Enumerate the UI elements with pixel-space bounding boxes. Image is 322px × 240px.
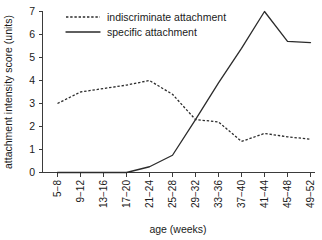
legend-label-indiscriminate: indiscriminate attachment bbox=[107, 11, 226, 23]
x-tick-label-11: 49−52 bbox=[305, 180, 316, 209]
y-tick-label-4: 4 bbox=[29, 74, 35, 86]
x-tick-label-3: 17−20 bbox=[121, 180, 132, 209]
attachment-intensity-line-chart: 0 1 2 3 4 5 6 7 bbox=[0, 0, 322, 240]
legend-label-specific: specific attachment bbox=[107, 26, 197, 38]
y-tick-label-1: 1 bbox=[29, 143, 35, 155]
x-tick-label-7: 33−36 bbox=[213, 180, 224, 209]
y-tick-label-2: 2 bbox=[29, 120, 35, 132]
chart-canvas: 0 1 2 3 4 5 6 7 bbox=[0, 0, 322, 240]
x-tick-label-8: 37−40 bbox=[236, 180, 247, 209]
y-tick-label-6: 6 bbox=[29, 28, 35, 40]
x-tick-label-1: 9−12 bbox=[75, 180, 86, 203]
x-axis-title: age (weeks) bbox=[149, 223, 206, 235]
x-tick-label-10: 45−48 bbox=[282, 180, 293, 209]
x-tick-label-4: 21−24 bbox=[144, 180, 155, 209]
y-tick-label-0: 0 bbox=[29, 166, 35, 178]
chart-legend: indiscriminate attachment specific attac… bbox=[66, 11, 226, 38]
y-tick-label-3: 3 bbox=[29, 97, 35, 109]
y-tick-label-7: 7 bbox=[29, 5, 35, 17]
series-line-indiscriminate-attachment bbox=[58, 81, 311, 142]
x-tick-label-6: 29−32 bbox=[190, 180, 201, 209]
x-tick-label-2: 13−16 bbox=[98, 180, 109, 209]
y-axis-title: attachment intensity score (units) bbox=[2, 15, 14, 169]
x-tick-label-0: 5−8 bbox=[52, 180, 63, 197]
x-axis-category-labels: 5−8 9−12 13−16 17−20 21−24 25−28 29−32 3… bbox=[52, 180, 316, 209]
y-tick-label-5: 5 bbox=[29, 51, 35, 63]
y-axis-ticks: 0 1 2 3 4 5 6 7 bbox=[29, 5, 42, 178]
x-axis-ticks bbox=[58, 173, 311, 178]
x-tick-label-9: 41−44 bbox=[259, 180, 270, 209]
x-tick-label-5: 25−28 bbox=[167, 180, 178, 209]
